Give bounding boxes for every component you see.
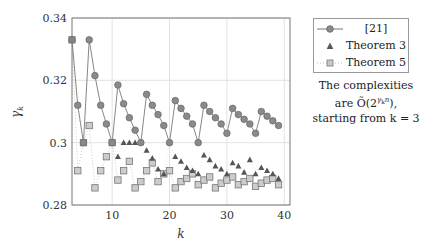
legend-item-theorem3: Theorem 3 [314,38,410,54]
series-layer [69,37,282,192]
x-tick-label: 20 [163,209,177,222]
legend-item-theorem5: Theorem 5 [314,55,410,71]
note-line-3: starting from k = 3 [296,111,436,126]
legend: [21] Theorem 3 Theorem 5 [313,18,409,73]
y-tick-label: 0.28 [43,199,68,212]
legend-circle-icon [317,23,343,35]
series-square [69,37,282,191]
x-axis-label: k [177,227,184,241]
legend-triangle-icon [317,40,343,52]
legend-label: [21] [344,22,408,35]
y-tick-label: 0.32 [43,74,68,87]
legend-square-icon [317,57,343,69]
x-tick-label: 30 [220,209,234,222]
svg-text:γk: γk [9,106,25,118]
series-circle [69,37,282,146]
complexity-note: The complexities are Õ(2γkn), starting f… [296,78,436,126]
y-axis-label: γk [9,106,25,118]
note-line-1: The complexities [296,78,436,93]
legend-label: Theorem 3 [344,39,408,52]
y-tick-label: 0.34 [43,12,68,25]
x-tick-label: 10 [105,209,119,222]
legend-item-ref21: [21] [314,21,410,37]
y-axis-label-sub: k [16,106,25,111]
y-tick-label: 0.3 [50,137,68,150]
x-tick-label: 40 [277,209,291,222]
legend-label: Theorem 5 [344,56,408,69]
note-line-2: are Õ(2γkn), [296,93,436,111]
